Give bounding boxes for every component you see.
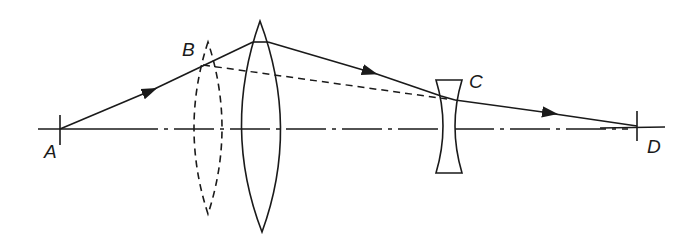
label-c: C [469, 71, 483, 92]
label-d: D [647, 136, 661, 157]
ray-c-to-d [441, 96, 637, 126]
label-b: B [182, 39, 195, 60]
ray-b-to-c-dashed [203, 65, 447, 99]
ray-lens-to-c [268, 42, 441, 96]
optics-diagram: A B C D [0, 0, 698, 246]
ray-a-to-lens [60, 42, 253, 129]
label-a: A [43, 141, 57, 162]
optical-axis [38, 127, 665, 129]
diverging-lens [436, 80, 462, 173]
converging-lens [241, 21, 280, 232]
